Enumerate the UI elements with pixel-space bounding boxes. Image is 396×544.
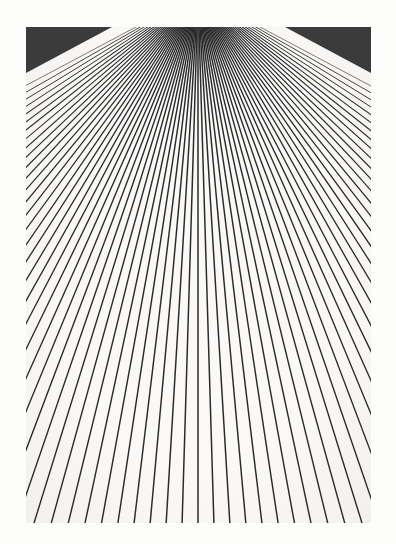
ray-line: [198, 27, 219, 523]
printed-plate: [26, 27, 371, 523]
ray-line: [26, 27, 192, 284]
ray-line: [75, 27, 196, 523]
ray-line: [199, 27, 320, 523]
figure-page: [0, 0, 396, 544]
ray-line: [156, 27, 197, 523]
ray-line: [204, 27, 371, 339]
ray-line: [201, 27, 371, 523]
ray-line: [26, 27, 194, 523]
dark-corner-top-right: [285, 27, 371, 73]
ray-line: [135, 27, 197, 523]
ray-line: [198, 27, 239, 523]
ray-line: [199, 27, 261, 523]
ray-line: [201, 27, 371, 523]
ray-line: [177, 27, 198, 523]
radial-ray-field: [26, 27, 371, 523]
ray-line: [202, 27, 371, 499]
